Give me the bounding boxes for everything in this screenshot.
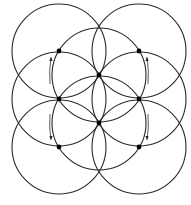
point-p-lower-left [57, 145, 62, 150]
point-p-upper-left [57, 49, 62, 54]
overlapping-circles-diagram [0, 0, 191, 205]
point-p-mid-left [57, 97, 62, 102]
point-p-upper-right [137, 49, 142, 54]
circles-group [12, 4, 186, 194]
arrows-group [49, 57, 148, 140]
arrow-upper-left-shaft [50, 57, 51, 84]
arrow-lower-left-head-icon [49, 136, 52, 140]
arrow-upper-right-head-icon [145, 57, 148, 61]
points-group [57, 49, 142, 150]
arrow-upper-left-head-icon [49, 57, 52, 61]
point-p-center-upper [97, 73, 102, 78]
point-p-lower-right [137, 145, 142, 150]
point-p-mid-right [137, 97, 142, 102]
point-p-center-lower [97, 121, 102, 126]
arrow-upper-right-shaft [147, 57, 148, 84]
arrow-lower-right-head-icon [145, 136, 148, 140]
